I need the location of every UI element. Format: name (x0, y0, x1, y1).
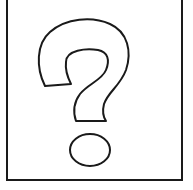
question-mark-icon (0, 0, 193, 190)
